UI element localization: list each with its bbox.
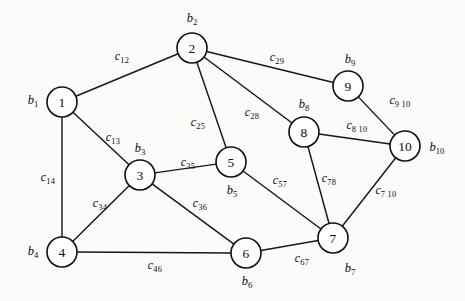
edge-cost-subscript: 57 bbox=[278, 179, 287, 188]
node-variable-label-7: b7 bbox=[345, 262, 356, 275]
graph-node-label-3: 3 bbox=[137, 169, 144, 183]
node-variable-subscript: 7 bbox=[351, 266, 356, 276]
edge-cost-label-9-10: c9 10 bbox=[389, 94, 410, 106]
node-variable-subscript: 3 bbox=[141, 146, 146, 156]
graph-node-label-4: 4 bbox=[59, 246, 66, 260]
edge-cost-subscript: 14 bbox=[46, 176, 55, 185]
graph-svg bbox=[0, 0, 465, 301]
graph-edge-6-7 bbox=[261, 241, 318, 251]
edge-cost-subscript: 8 10 bbox=[352, 124, 368, 133]
node-variable-subscript: 1 bbox=[34, 98, 39, 108]
graph-edge-8-10 bbox=[319, 134, 390, 144]
edge-cost-subscript: 9 10 bbox=[395, 99, 411, 108]
edge-cost-label-3-4: c34 bbox=[93, 197, 107, 209]
graph-diagram-canvas: c12c13c14c25c28c29c34c35c36c46c57c67c78c… bbox=[0, 0, 465, 301]
node-variable-subscript: 10 bbox=[436, 145, 445, 155]
edge-cost-subscript: 67 bbox=[300, 257, 309, 266]
graph-node-label-9: 9 bbox=[345, 80, 352, 94]
node-variable-label-9: b9 bbox=[345, 53, 356, 66]
edge-cost-label-2-5: c25 bbox=[191, 116, 205, 128]
edge-cost-label-5-7: c57 bbox=[273, 174, 287, 186]
edge-cost-label-6-7: c67 bbox=[295, 252, 309, 264]
graph-node-label-5: 5 bbox=[228, 156, 235, 170]
node-variable-subscript: 2 bbox=[193, 16, 198, 26]
edge-cost-subscript: 28 bbox=[250, 111, 259, 120]
node-variable-label-8: b8 bbox=[299, 98, 310, 111]
node-variable-label-10: b10 bbox=[429, 141, 444, 154]
graph-node-label-10: 10 bbox=[398, 140, 412, 154]
edge-cost-subscript: 25 bbox=[196, 121, 205, 130]
graph-node-label-6: 6 bbox=[243, 247, 250, 261]
edge-cost-label-8-10: c8 10 bbox=[346, 119, 367, 131]
edge-cost-subscript: 7 10 bbox=[381, 189, 397, 198]
node-variable-label-2: b2 bbox=[187, 12, 198, 25]
edge-cost-subscript: 78 bbox=[327, 177, 336, 186]
node-variable-label-6: b6 bbox=[242, 275, 253, 288]
edge-cost-subscript: 46 bbox=[153, 264, 162, 273]
edge-cost-subscript: 34 bbox=[98, 202, 107, 211]
graph-edge-1-3 bbox=[73, 112, 129, 165]
graph-edge-3-6 bbox=[152, 184, 234, 244]
edge-cost-label-4-6: c46 bbox=[148, 259, 162, 271]
edge-cost-label-2-9: c29 bbox=[270, 51, 284, 63]
graph-edge-4-6 bbox=[77, 252, 231, 253]
edge-cost-label-1-2: c12 bbox=[115, 50, 129, 62]
node-variable-label-1: b1 bbox=[28, 94, 39, 107]
node-variable-subscript: 5 bbox=[233, 188, 238, 198]
nodes-layer bbox=[47, 33, 420, 268]
node-variable-label-3: b3 bbox=[135, 142, 146, 155]
node-variable-label-5: b5 bbox=[227, 184, 238, 197]
edge-cost-label-7-8: c78 bbox=[322, 172, 336, 184]
edge-cost-subscript: 13 bbox=[111, 136, 120, 145]
graph-edge-3-4 bbox=[73, 186, 130, 242]
graph-edge-2-5 bbox=[197, 62, 226, 148]
edge-cost-subscript: 36 bbox=[198, 202, 207, 211]
node-variable-label-4: b4 bbox=[28, 245, 39, 258]
edge-cost-subscript: 12 bbox=[120, 55, 129, 64]
edge-cost-label-2-8: c28 bbox=[245, 106, 259, 118]
graph-node-label-7: 7 bbox=[330, 232, 337, 246]
edge-cost-label-3-6: c36 bbox=[193, 197, 207, 209]
edge-cost-label-1-4: c14 bbox=[41, 171, 55, 183]
edge-cost-label-7-10: c7 10 bbox=[375, 184, 396, 196]
edge-cost-subscript: 35 bbox=[186, 161, 195, 170]
edge-cost-label-1-3: c13 bbox=[106, 131, 120, 143]
node-variable-subscript: 6 bbox=[248, 279, 253, 289]
graph-node-label-8: 8 bbox=[301, 126, 308, 140]
graph-node-label-1: 1 bbox=[59, 96, 66, 110]
edge-cost-label-3-5: c35 bbox=[181, 156, 195, 168]
node-variable-subscript: 8 bbox=[305, 102, 310, 112]
node-variable-subscript: 4 bbox=[34, 249, 39, 259]
graph-node-label-2: 2 bbox=[189, 42, 196, 56]
node-variable-subscript: 9 bbox=[351, 57, 356, 67]
edge-cost-subscript: 29 bbox=[275, 56, 284, 65]
